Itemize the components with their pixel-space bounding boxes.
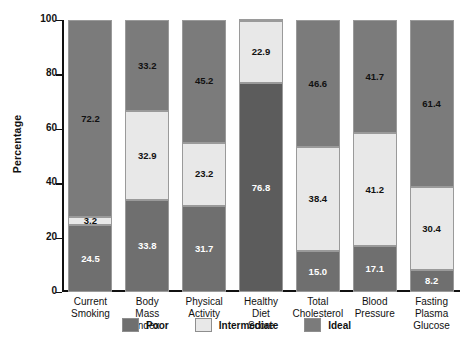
x-axis-category-line: Current — [62, 296, 119, 308]
x-axis-category-line: Total — [289, 296, 346, 308]
bar-segment-value: 30.4 — [422, 224, 441, 234]
bar-segment-value: 23.2 — [195, 169, 214, 179]
bar-segment[interactable]: 33.8 — [125, 200, 169, 292]
x-axis-category-label: PhysicalActivity — [176, 296, 233, 320]
x-axis-category-line: Fasting — [403, 296, 460, 308]
legend-item[interactable]: Intermediate — [195, 318, 278, 332]
bar-column[interactable]: 76.822.9 — [239, 20, 283, 292]
bar-segment-value: 46.6 — [309, 79, 328, 89]
legend-label: Poor — [146, 320, 169, 331]
bar-segment-value: 31.7 — [195, 244, 214, 254]
bar-segment[interactable]: 61.4 — [410, 20, 454, 187]
bar-segment[interactable]: 45.2 — [182, 20, 226, 143]
bar-segment[interactable]: 76.8 — [239, 83, 283, 292]
y-tick-label: 40 — [46, 176, 57, 187]
x-axis-category-line: Physical — [176, 296, 233, 308]
bar-segment-value: 22.9 — [252, 47, 271, 57]
bar-segment-value: 8.2 — [425, 276, 438, 286]
legend-swatch — [195, 318, 212, 332]
x-axis-category-label: BloodPressure — [346, 296, 403, 320]
y-tick-label: 60 — [46, 122, 57, 133]
bar-segment-value: 17.1 — [365, 264, 384, 274]
bar-segment[interactable]: 41.7 — [353, 20, 397, 133]
bar-column[interactable]: 17.141.241.7 — [353, 20, 397, 292]
y-tick-label: 0 — [51, 285, 57, 296]
y-tick-label: 20 — [46, 231, 57, 242]
y-tick-label: 100 — [40, 13, 57, 24]
plot-area: 020406080100 24.53.272.233.832.933.231.7… — [62, 20, 460, 292]
bar-segment[interactable]: 41.2 — [353, 133, 397, 245]
bar-segment-value: 32.9 — [138, 151, 157, 161]
legend-item[interactable]: Ideal — [304, 318, 351, 332]
bar-segment-value: 33.8 — [138, 241, 157, 251]
bar-segment[interactable] — [239, 19, 283, 21]
legend-label: Ideal — [328, 320, 351, 331]
bar-segment[interactable]: 22.9 — [239, 21, 283, 83]
bar-segment[interactable]: 31.7 — [182, 206, 226, 292]
bar-segment[interactable]: 30.4 — [410, 187, 454, 270]
bar-column[interactable]: 24.53.272.2 — [68, 20, 112, 292]
bar-segment-value: 33.2 — [138, 61, 157, 71]
bar-group: 24.53.272.233.832.933.231.723.245.276.82… — [62, 20, 460, 292]
bar-segment[interactable]: 8.2 — [410, 270, 454, 292]
bar-segment-value: 72.2 — [81, 114, 100, 124]
bar-column[interactable]: 33.832.933.2 — [125, 20, 169, 292]
bar-segment[interactable]: 72.2 — [68, 20, 112, 216]
bar-segment[interactable]: 15.0 — [296, 251, 340, 292]
bar-segment-value: 45.2 — [195, 76, 214, 86]
legend-swatch — [122, 318, 139, 332]
x-axis-category-line: Body — [119, 296, 176, 308]
bar-segment-value: 41.7 — [365, 72, 384, 82]
y-axis-title: Percentage — [11, 89, 23, 199]
bar-column[interactable]: 31.723.245.2 — [182, 20, 226, 292]
bar-segment[interactable]: 17.1 — [353, 246, 397, 293]
stacked-bar-chart: Percentage 020406080100 24.53.272.233.83… — [0, 0, 473, 356]
x-axis-category-label: TotalCholesterol — [289, 296, 346, 320]
bar-segment-value: 76.8 — [252, 183, 271, 193]
bar-segment-value: 24.5 — [81, 254, 100, 264]
bar-segment-value: 38.4 — [309, 194, 328, 204]
bar-column[interactable]: 15.038.446.6 — [296, 20, 340, 292]
legend-item[interactable]: Poor — [122, 318, 169, 332]
chart-legend: PoorIntermediateIdeal — [0, 318, 473, 332]
bar-segment-value: 61.4 — [422, 99, 441, 109]
bar-segment[interactable]: 24.5 — [68, 225, 112, 292]
x-axis-category-label: CurrentSmoking — [62, 296, 119, 320]
bar-segment[interactable]: 46.6 — [296, 20, 340, 147]
bar-segment[interactable]: 38.4 — [296, 147, 340, 251]
bar-segment[interactable]: 33.2 — [125, 20, 169, 110]
y-tick-label: 80 — [46, 67, 57, 78]
bar-segment-value: 3.2 — [69, 216, 111, 226]
legend-label: Intermediate — [219, 320, 278, 331]
bar-segment-value: 15.0 — [309, 267, 328, 277]
bar-column[interactable]: 8.230.461.4 — [410, 20, 454, 292]
bar-segment-value: 41.2 — [365, 185, 384, 195]
x-axis-category-line: Blood — [346, 296, 403, 308]
legend-swatch — [304, 318, 321, 332]
bar-segment[interactable]: 32.9 — [125, 111, 169, 200]
x-axis-category-line: Healthy — [233, 296, 290, 308]
bar-segment[interactable]: 3.2 — [68, 217, 112, 226]
bar-segment[interactable]: 23.2 — [182, 143, 226, 206]
